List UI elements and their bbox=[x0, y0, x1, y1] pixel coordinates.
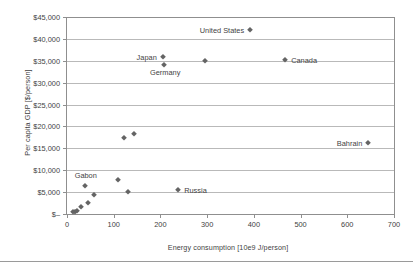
data-point-marker bbox=[82, 183, 88, 189]
gridline-y bbox=[67, 148, 394, 149]
point-label: United States bbox=[200, 26, 244, 35]
y-tick-label: $– bbox=[52, 210, 60, 219]
y-tick-mark bbox=[63, 17, 67, 18]
x-tick-label: 100 bbox=[108, 220, 120, 229]
y-tick-mark bbox=[63, 170, 67, 171]
x-tick-mark bbox=[254, 214, 255, 218]
gridline-y bbox=[67, 105, 394, 106]
point-label: Gabon bbox=[75, 171, 97, 180]
x-tick-mark bbox=[160, 214, 161, 218]
point-label: Canada bbox=[291, 56, 317, 65]
gridline-y bbox=[67, 126, 394, 127]
data-point-marker bbox=[131, 131, 137, 137]
y-tick-mark bbox=[63, 192, 67, 193]
y-tick-label: $45,000 bbox=[33, 13, 60, 22]
x-tick-mark bbox=[301, 214, 302, 218]
y-tick-mark bbox=[63, 126, 67, 127]
x-axis-title: Energy consumption [10e9 J/person] bbox=[60, 243, 396, 252]
x-tick-mark bbox=[394, 214, 395, 218]
data-point-marker bbox=[121, 135, 127, 141]
y-tick-label: $5,000 bbox=[37, 188, 60, 197]
x-tick-label: 0 bbox=[65, 220, 69, 229]
data-point-marker bbox=[202, 58, 208, 64]
x-tick-mark bbox=[207, 214, 208, 218]
y-tick-mark bbox=[63, 148, 67, 149]
data-point-marker bbox=[125, 189, 131, 195]
point-label: Germany bbox=[150, 68, 180, 77]
x-tick-label: 500 bbox=[294, 220, 306, 229]
y-tick-mark bbox=[63, 39, 67, 40]
footer-divider bbox=[0, 261, 413, 262]
plot-area: $–$5,000$10,000$15,000$20,000$25,000$30,… bbox=[66, 17, 395, 214]
data-point-marker bbox=[115, 177, 121, 183]
y-tick-label: $35,000 bbox=[33, 56, 60, 65]
x-tick-label: 300 bbox=[201, 220, 213, 229]
x-tick-mark bbox=[114, 214, 115, 218]
x-tick-label: 200 bbox=[154, 220, 166, 229]
x-tick-label: 600 bbox=[341, 220, 353, 229]
y-tick-mark bbox=[63, 105, 67, 106]
y-axis-title: Per capita GDP [$/person] bbox=[23, 23, 32, 203]
x-tick-label: 400 bbox=[248, 220, 260, 229]
gridline-y bbox=[67, 214, 394, 215]
data-point-marker bbox=[365, 140, 371, 146]
data-point-marker bbox=[78, 203, 84, 209]
gridline-y bbox=[67, 61, 394, 62]
y-tick-mark bbox=[63, 83, 67, 84]
x-tick-mark bbox=[347, 214, 348, 218]
data-point-marker bbox=[282, 57, 288, 63]
data-point-marker bbox=[85, 200, 91, 206]
y-tick-label: $40,000 bbox=[33, 34, 60, 43]
y-tick-label: $30,000 bbox=[33, 78, 60, 87]
y-tick-label: $15,000 bbox=[33, 144, 60, 153]
point-label: Japan bbox=[137, 52, 157, 61]
point-label: Bahrain bbox=[337, 139, 362, 148]
x-tick-mark bbox=[67, 214, 68, 218]
gridline-y bbox=[67, 192, 394, 193]
gridline-y bbox=[67, 17, 394, 18]
y-tick-label: $20,000 bbox=[33, 122, 60, 131]
data-point-marker bbox=[160, 54, 166, 60]
x-tick-label: 700 bbox=[388, 220, 400, 229]
point-label: Russia bbox=[184, 186, 207, 195]
gridline-y bbox=[67, 83, 394, 84]
scatter-chart-figure: Per capita GDP [$/person] $–$5,000$10,00… bbox=[0, 0, 413, 268]
gridline-y bbox=[67, 39, 394, 40]
data-point-marker bbox=[247, 27, 253, 33]
y-tick-mark bbox=[63, 61, 67, 62]
gridline-y bbox=[67, 170, 394, 171]
y-tick-label: $25,000 bbox=[33, 100, 60, 109]
y-tick-label: $10,000 bbox=[33, 166, 60, 175]
